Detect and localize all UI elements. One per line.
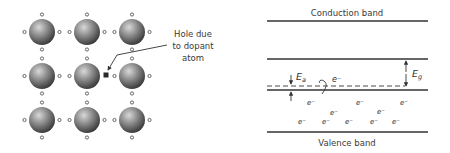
valence-electron: e⁻	[400, 99, 408, 107]
bond-electron	[58, 118, 61, 121]
bond-electron	[85, 136, 88, 139]
bond-electron	[23, 74, 26, 77]
valence-electron: e⁻	[356, 99, 364, 107]
valence-electron: e⁻	[345, 118, 353, 126]
bond-electron	[68, 30, 71, 33]
eg-label: Eg	[412, 68, 422, 81]
atom	[29, 19, 55, 45]
bond-electron	[40, 92, 43, 95]
bond-electron	[130, 48, 133, 51]
hole-label-line-1: Hole due	[174, 29, 212, 39]
bond-electron	[148, 74, 151, 77]
atom	[119, 107, 145, 133]
bond-electron	[103, 118, 106, 121]
valence-electrons: e⁻e⁻e⁻e⁻e⁻e⁻e⁻e⁻e⁻e⁻	[298, 99, 408, 126]
bond-electron	[103, 30, 106, 33]
bond-electron	[130, 136, 133, 139]
bond-electron	[85, 92, 88, 95]
bond-electron	[40, 57, 43, 60]
atom	[119, 63, 145, 89]
bond-electron	[85, 101, 88, 104]
atom	[74, 107, 100, 133]
conduction-band-label: Conduction band	[311, 8, 383, 18]
atom	[29, 63, 55, 89]
bond-electron	[85, 48, 88, 51]
bond-electron	[148, 118, 151, 121]
ea-label: Ea	[296, 71, 306, 84]
valence-band-label: Valence band	[318, 138, 375, 148]
atom	[74, 63, 100, 89]
bond-electron	[130, 57, 133, 60]
bond-electron	[113, 74, 116, 77]
bond-electron	[68, 74, 71, 77]
bond-electron	[23, 118, 26, 121]
bond-electron	[130, 92, 133, 95]
electron-jump-arrow	[319, 80, 326, 94]
bond-electron	[113, 30, 116, 33]
bond-electron	[148, 30, 151, 33]
atom	[74, 19, 100, 45]
bond-electron	[58, 74, 61, 77]
valence-electron: e⁻	[298, 118, 306, 126]
bond-electron	[68, 118, 71, 121]
bond-electron	[85, 57, 88, 60]
valence-electron: e⁻	[377, 108, 385, 116]
bond-electron	[130, 101, 133, 104]
valence-electron: e⁻	[322, 118, 330, 126]
bond-electron	[40, 48, 43, 51]
bond-electron	[40, 101, 43, 104]
valence-electron: e⁻	[392, 118, 400, 126]
semiconductor-diagram: Hole due to dopant atom Conduction band …	[0, 0, 450, 153]
bond-electron	[23, 30, 26, 33]
acceptor-electron: e⁻	[332, 75, 341, 84]
valence-electron: e⁻	[370, 118, 378, 126]
bond-electron	[40, 13, 43, 16]
bond-electron	[113, 118, 116, 121]
bond-electron	[130, 13, 133, 16]
hole-label-line-2: to dopant	[172, 41, 214, 51]
hole-label-line-3: atom	[182, 53, 204, 63]
crystal-lattice	[23, 13, 151, 139]
atom	[29, 107, 55, 133]
bond-electron	[40, 136, 43, 139]
hole-marker	[104, 73, 109, 78]
valence-electron: e⁻	[330, 109, 338, 117]
bond-electron	[58, 30, 61, 33]
bond-electron	[85, 13, 88, 16]
atom	[119, 19, 145, 45]
valence-electron: e⁻	[307, 99, 315, 107]
